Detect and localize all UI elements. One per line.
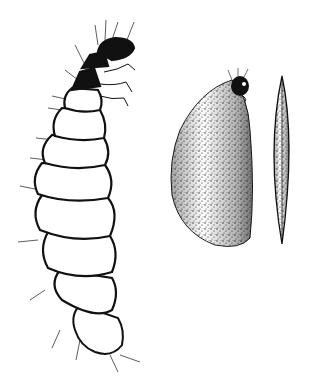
larva	[18, 20, 140, 372]
illustration	[0, 0, 315, 377]
larva-and-cases-drawing	[0, 0, 315, 377]
case-broad	[171, 68, 253, 246]
case-side	[274, 76, 289, 244]
